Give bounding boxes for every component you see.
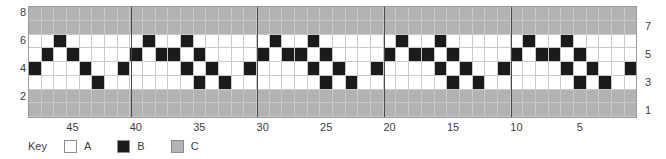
chart-cell[interactable] [511, 21, 524, 35]
chart-cell[interactable] [409, 48, 422, 62]
chart-cell[interactable] [587, 48, 600, 62]
chart-cell[interactable] [536, 62, 549, 76]
chart-cell[interactable] [282, 48, 295, 62]
chart-cell[interactable] [194, 21, 207, 35]
chart-cell[interactable] [80, 48, 93, 62]
chart-cell[interactable] [257, 62, 270, 76]
chart-cell[interactable] [358, 21, 371, 35]
chart-cell[interactable] [42, 76, 55, 90]
chart-cell[interactable] [105, 35, 118, 49]
chart-cell[interactable] [232, 90, 245, 104]
chart-cell[interactable] [143, 48, 156, 62]
chart-cell[interactable] [574, 35, 587, 49]
chart-cell[interactable] [42, 48, 55, 62]
chart-cell[interactable] [371, 103, 384, 117]
chart-cell[interactable] [485, 48, 498, 62]
chart-cell[interactable] [460, 21, 473, 35]
chart-cell[interactable] [549, 35, 562, 49]
chart-cell[interactable] [194, 62, 207, 76]
chart-cell[interactable] [257, 7, 270, 21]
chart-cell[interactable] [282, 62, 295, 76]
chart-cell[interactable] [561, 7, 574, 21]
chart-cell[interactable] [536, 76, 549, 90]
chart-cell[interactable] [625, 48, 637, 62]
chart-cell[interactable] [181, 35, 194, 49]
chart-cell[interactable] [42, 7, 55, 21]
chart-cell[interactable] [587, 62, 600, 76]
chart-cell[interactable] [511, 35, 524, 49]
chart-cell[interactable] [156, 35, 169, 49]
chart-cell[interactable] [485, 76, 498, 90]
chart-cell[interactable] [105, 103, 118, 117]
chart-cell[interactable] [612, 76, 625, 90]
chart-cell[interactable] [270, 21, 283, 35]
chart-cell[interactable] [587, 76, 600, 90]
chart-cell[interactable] [485, 21, 498, 35]
chart-cell[interactable] [232, 62, 245, 76]
chart-cell[interactable] [346, 103, 359, 117]
chart-cell[interactable] [29, 35, 42, 49]
chart-cell[interactable] [371, 62, 384, 76]
chart-cell[interactable] [194, 90, 207, 104]
chart-cell[interactable] [295, 103, 308, 117]
chart-cell[interactable] [371, 7, 384, 21]
chart-cell[interactable] [168, 62, 181, 76]
chart-cell[interactable] [54, 103, 67, 117]
chart-cell[interactable] [219, 62, 232, 76]
chart-cell[interactable] [219, 103, 232, 117]
chart-cell[interactable] [536, 90, 549, 104]
chart-cell[interactable] [282, 35, 295, 49]
chart-cell[interactable] [587, 7, 600, 21]
chart-cell[interactable] [485, 90, 498, 104]
chart-cell[interactable] [447, 35, 460, 49]
chart-cell[interactable] [92, 7, 105, 21]
chart-cell[interactable] [320, 48, 333, 62]
chart-cell[interactable] [181, 103, 194, 117]
chart-cell[interactable] [612, 21, 625, 35]
chart-cell[interactable] [54, 90, 67, 104]
chart-cell[interactable] [320, 62, 333, 76]
chart-cell[interactable] [54, 62, 67, 76]
chart-cell[interactable] [574, 76, 587, 90]
chart-cell[interactable] [498, 103, 511, 117]
chart-cell[interactable] [447, 48, 460, 62]
chart-cell[interactable] [498, 7, 511, 21]
chart-cell[interactable] [282, 103, 295, 117]
chart-cell[interactable] [80, 62, 93, 76]
chart-cell[interactable] [384, 62, 397, 76]
chart-cell[interactable] [54, 48, 67, 62]
chart-cell[interactable] [599, 103, 612, 117]
chart-cell[interactable] [130, 35, 143, 49]
chart-cell[interactable] [80, 76, 93, 90]
chart-cell[interactable] [143, 62, 156, 76]
chart-cell[interactable] [549, 76, 562, 90]
chart-cell[interactable] [561, 90, 574, 104]
chart-cell[interactable] [206, 62, 219, 76]
chart-cell[interactable] [549, 62, 562, 76]
chart-cell[interactable] [130, 48, 143, 62]
chart-cell[interactable] [384, 21, 397, 35]
chart-cell[interactable] [447, 76, 460, 90]
chart-cell[interactable] [244, 21, 257, 35]
chart-cell[interactable] [168, 35, 181, 49]
chart-cell[interactable] [384, 48, 397, 62]
chart-cell[interactable] [396, 35, 409, 49]
chart-cell[interactable] [409, 90, 422, 104]
chart-cell[interactable] [371, 90, 384, 104]
chart-cell[interactable] [473, 21, 486, 35]
chart-cell[interactable] [295, 90, 308, 104]
chart-cell[interactable] [422, 35, 435, 49]
chart-cell[interactable] [168, 7, 181, 21]
chart-cell[interactable] [384, 103, 397, 117]
chart-cell[interactable] [270, 90, 283, 104]
chart-cell[interactable] [409, 103, 422, 117]
chart-cell[interactable] [371, 76, 384, 90]
chart-cell[interactable] [422, 21, 435, 35]
chart-cell[interactable] [244, 76, 257, 90]
chart-cell[interactable] [599, 7, 612, 21]
chart-cell[interactable] [561, 21, 574, 35]
chart-cell[interactable] [194, 35, 207, 49]
chart-cell[interactable] [358, 48, 371, 62]
chart-cell[interactable] [244, 7, 257, 21]
chart-cell[interactable] [422, 90, 435, 104]
